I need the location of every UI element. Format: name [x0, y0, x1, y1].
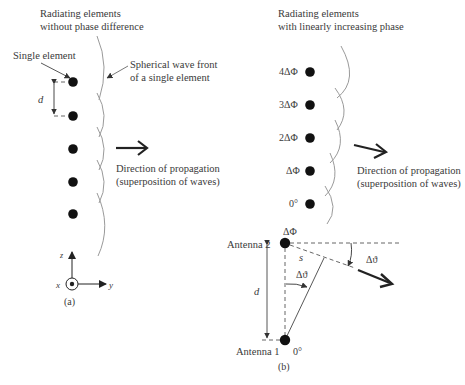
- antenna-array-diagram: Radiating elements without phase differe…: [0, 0, 465, 385]
- wavefront-label-line1: Spherical wave front: [130, 59, 218, 70]
- radiating-element: [305, 100, 315, 110]
- inner-angle-label: Δϑ: [296, 269, 307, 280]
- wavefront-arc: [97, 36, 104, 100]
- panel-b-caption: (b): [278, 361, 290, 373]
- radiating-element: [68, 177, 78, 187]
- radiating-element: [68, 77, 78, 87]
- radiating-element: [305, 166, 315, 176]
- wavefronts-a: [97, 36, 105, 256]
- panel-a-title-line2: without phase difference: [40, 21, 144, 32]
- x-axis-dot: [70, 282, 74, 286]
- panel-a-title-line1: Radiating elements: [40, 8, 121, 19]
- wavefront-arc: [97, 193, 105, 256]
- path-label-s: s: [299, 252, 303, 263]
- radiating-element: [68, 111, 78, 121]
- inner-angle-arc: [286, 284, 307, 287]
- x-axis-label: x: [55, 280, 60, 290]
- outer-angle-arc: [348, 243, 352, 266]
- single-element-pointer: [41, 63, 70, 78]
- panel-a: Radiating elements without phase differe…: [13, 8, 221, 308]
- antenna-1: [280, 335, 290, 345]
- direction-label-a-line2: (superposition of waves): [116, 176, 220, 188]
- panel-b-bottom: Antenna 2 ΔΦ s d Δϑ Δϑ Antenna 1 0° (b): [227, 226, 400, 373]
- wavefront-label-line2: of a single element: [130, 72, 210, 83]
- phase-label: 4ΔΦ: [279, 66, 298, 77]
- radiating-element: [68, 144, 78, 154]
- coordinate-axes: z x y (a): [55, 251, 113, 308]
- radiating-element: [305, 133, 315, 143]
- phase-label: 2ΔΦ: [279, 132, 298, 143]
- radiating-element: [305, 67, 315, 77]
- panel-a-caption: (a): [64, 296, 75, 308]
- direction-label-b-line1: Direction of propagation: [357, 165, 462, 176]
- antenna-2-phase: ΔΦ: [283, 226, 297, 237]
- direction-label-a-line1: Direction of propagation: [116, 163, 221, 174]
- panel-b-top: Radiating elements with linearly increas…: [278, 8, 462, 224]
- wavefront-arc: [325, 186, 333, 224]
- direction-label-b-line2: (superposition of waves): [357, 178, 461, 190]
- radiating-element: [305, 199, 315, 209]
- panel-b-title-line1: Radiating elements: [278, 8, 359, 19]
- outer-angle-label: Δϑ: [366, 254, 377, 265]
- antenna-1-label: Antenna 1: [236, 346, 279, 357]
- phase-label: 0°: [289, 198, 298, 209]
- wavefront-pointer: [107, 66, 128, 78]
- z-axis-label: z: [59, 251, 64, 260]
- wavefronts-b: [325, 46, 350, 224]
- antenna-2-label: Antenna 2: [227, 239, 270, 250]
- antenna-2: [280, 238, 290, 248]
- wavefront-arc: [97, 127, 104, 170]
- antenna-1-phase: 0°: [293, 346, 302, 357]
- panel-b-title-line2: with linearly increasing phase: [278, 21, 404, 32]
- single-element-label: Single element: [13, 50, 76, 61]
- spacing-label-d: d: [38, 94, 44, 105]
- wavefront-arc: [337, 46, 350, 98]
- wavefront-arc: [97, 93, 104, 137]
- phase-label: 3ΔΦ: [279, 99, 298, 110]
- radiating-element: [68, 209, 78, 219]
- antenna-spacing-label: d: [254, 286, 260, 297]
- y-axis-label: y: [108, 280, 113, 290]
- phase-label: ΔΦ: [286, 165, 300, 176]
